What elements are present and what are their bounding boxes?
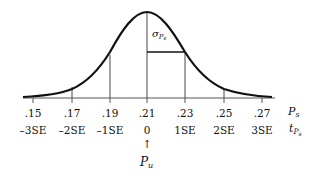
normal-curve <box>23 12 272 97</box>
tps-axis-label: tPs <box>289 123 302 140</box>
p-tick-label: .17 <box>52 107 92 119</box>
p-tick-label: .23 <box>165 107 205 119</box>
t-tick-label: 1SE <box>165 124 205 136</box>
p-tick-label: .25 <box>204 107 244 119</box>
p-tick-label: .21 <box>127 107 167 119</box>
t-tick-label: 0 <box>127 124 167 136</box>
t-tick-label: –1SE <box>90 124 130 136</box>
t-tick-label: 2SE <box>204 124 244 136</box>
pu-label: Pu <box>140 155 153 173</box>
p-tick-label: .15 <box>13 107 53 119</box>
normal-distribution-diagram: σPs .15 .17 .19 .21 .23 .25 .27 –3SE –2S… <box>0 0 320 185</box>
tick-marks <box>33 98 262 103</box>
up-arrow-icon: ↑ <box>142 139 152 151</box>
t-tick-label: 3SE <box>242 124 282 136</box>
sd-reference-lines <box>72 12 224 98</box>
p-tick-label: .19 <box>90 107 130 119</box>
sigma-label: σPs <box>152 28 166 44</box>
t-tick-label: –2SE <box>52 124 92 136</box>
ps-axis-label: Ps <box>288 106 299 121</box>
p-tick-label: .27 <box>242 107 282 119</box>
t-tick-label: –3SE <box>13 124 53 136</box>
